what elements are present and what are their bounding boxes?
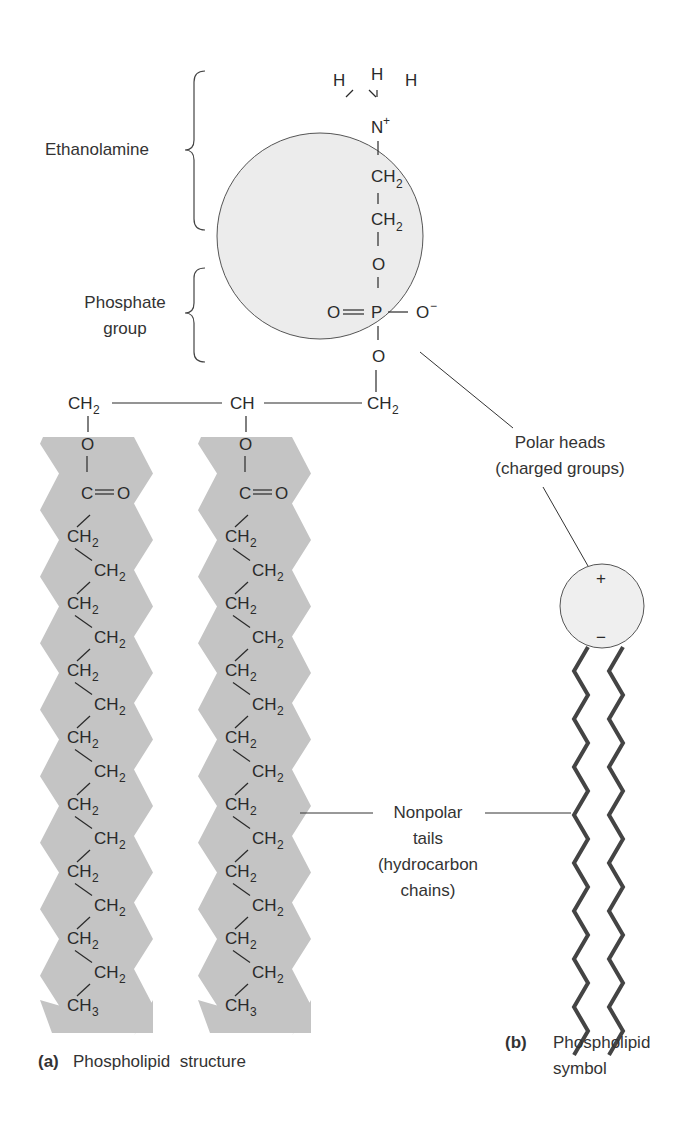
subscript: 2 (119, 838, 126, 852)
nonpolar-label-line3: (hydrocarbon (358, 852, 498, 878)
ester-oxygen: O (81, 435, 94, 454)
methylene: CH (252, 561, 277, 580)
phosphate-label: Phosphate group (70, 290, 180, 342)
subscript: 2 (277, 570, 284, 584)
methylene: CH (67, 661, 92, 680)
caption-b-text: Phospholipid symbol (553, 1030, 650, 1082)
hydrocarbon-chains: OCOCH2CH2CH2CH2CH2CH2CH2CH2CH2CH2CH2CH2C… (40, 435, 311, 1036)
terminal-methyl: CH (67, 996, 92, 1015)
methylene: CH (252, 896, 277, 915)
subscript: 2 (119, 771, 126, 785)
ethanolamine-label: Ethanolamine (45, 137, 149, 163)
methylene: CH (225, 929, 250, 948)
carbonyl-oxygen: O (117, 484, 130, 503)
methylene: CH (94, 963, 119, 982)
symbol-tails (574, 647, 623, 1055)
caption-a-text: Phospholipid structure (73, 1052, 246, 1071)
methylene: CH (94, 829, 119, 848)
carbonyl-oxygen: O (275, 484, 288, 503)
methylene: CH (225, 594, 250, 613)
caption-b-marker: (b) (505, 1030, 527, 1056)
subscript: 2 (277, 704, 284, 718)
subscript: 2 (392, 403, 399, 417)
subscript: 2 (119, 905, 126, 919)
methylene: CH (225, 728, 250, 747)
atom-ch2-lower: CH (371, 210, 396, 229)
polar-heads-label: Polar heads (charged groups) (455, 430, 665, 482)
methylene: CH (67, 728, 92, 747)
atom-n: N (371, 118, 383, 137)
atom-o-bottom: O (372, 347, 385, 366)
subscript: 2 (93, 403, 100, 417)
subscript: 2 (92, 737, 99, 751)
carbonyl-carbon: C (81, 484, 93, 503)
methylene: CH (225, 795, 250, 814)
caption-a: (a) Phospholipid structure (38, 1049, 246, 1075)
subscript: 3 (250, 1005, 257, 1019)
subscript: 2 (92, 804, 99, 818)
subscript: 2 (92, 871, 99, 885)
methylene: CH (67, 795, 92, 814)
methylene: CH (252, 695, 277, 714)
subscript: 2 (277, 838, 284, 852)
methylene: CH (94, 896, 119, 915)
phosphate-brace (185, 268, 205, 362)
atom-o-top: O (372, 255, 385, 274)
ester-oxygen: O (239, 435, 252, 454)
subscript: 2 (119, 637, 126, 651)
subscript: 2 (250, 871, 257, 885)
carbonyl-carbon: C (239, 484, 251, 503)
nonpolar-label-line1: Nonpolar (358, 800, 498, 826)
symbol-tail (609, 647, 623, 1055)
backbone-ch: CH (230, 394, 255, 413)
plus-icon: + (596, 569, 606, 588)
subscript: 2 (119, 570, 126, 584)
atom-h-left: H (333, 71, 345, 90)
backbone-ch2-left: CH (68, 394, 93, 413)
nonpolar-label-line2: tails (358, 826, 498, 852)
methylene: CH (67, 862, 92, 881)
nonpolar-label-line4: chains) (358, 878, 498, 904)
methylene: CH (225, 862, 250, 881)
subscript: 2 (250, 536, 257, 550)
methylene: CH (225, 661, 250, 680)
subscript: 2 (92, 603, 99, 617)
atom-h-top: H (371, 65, 383, 84)
methylene: CH (94, 762, 119, 781)
polar-leader-lower (543, 487, 588, 566)
subscript: 2 (92, 670, 99, 684)
subscript: 2 (92, 938, 99, 952)
subscript: 2 (277, 972, 284, 986)
polar-leader-upper (420, 352, 513, 428)
nonpolar-tails-label: Nonpolar tails (hydrocarbon chains) (358, 800, 498, 904)
atom-p: P (371, 303, 382, 322)
glycerol-backbone: CH 2 CH CH 2 (68, 394, 399, 432)
methylene: CH (252, 963, 277, 982)
caption-a-marker: (a) (38, 1052, 59, 1071)
subscript: 2 (119, 704, 126, 718)
methylene: CH (67, 594, 92, 613)
phosphate-label-line2: group (70, 316, 180, 342)
methylene: CH (252, 829, 277, 848)
methylene: CH (67, 929, 92, 948)
o-charge: − (430, 299, 437, 313)
polar-head-circle (217, 133, 423, 339)
terminal-methyl: CH (225, 996, 250, 1015)
methylene: CH (252, 762, 277, 781)
methylene: CH (252, 628, 277, 647)
atom-ch2-upper: CH (371, 167, 396, 186)
symbol-tail (574, 647, 588, 1055)
methylene: CH (94, 695, 119, 714)
subscript: 2 (277, 637, 284, 651)
subscript: 2 (277, 905, 284, 919)
subscript: 2 (396, 220, 403, 234)
subscript: 2 (119, 972, 126, 986)
atom-o-double: O (327, 303, 340, 322)
polar-label-line2: (charged groups) (455, 456, 665, 482)
methylene: CH (94, 561, 119, 580)
ethanolamine-brace (185, 71, 205, 230)
atom-o-minus: O (416, 303, 429, 322)
phospholipid-diagram: H H H N + CH 2 CH 2 O O P O − O CH 2 CH … (0, 0, 695, 1131)
methylene: CH (67, 527, 92, 546)
caption-b-line1: Phospholipid (553, 1030, 650, 1056)
